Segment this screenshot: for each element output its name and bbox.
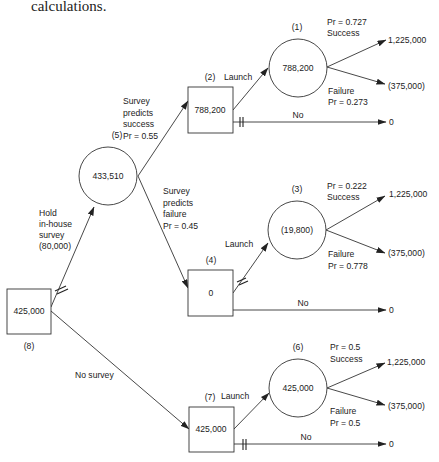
payoff-3-success: 1,225,000 bbox=[389, 189, 427, 199]
node-3-id: (3) bbox=[292, 184, 303, 194]
node-5-id: (5) bbox=[112, 130, 123, 140]
launch-label-2: Launch bbox=[224, 72, 252, 82]
node-6-failure-label: Failure bbox=[330, 406, 356, 416]
node-6-success-label: Success bbox=[330, 354, 362, 364]
node-3-failure-pr: Pr = 0.778 bbox=[328, 261, 368, 271]
node-1-failure-label: Failure bbox=[328, 86, 354, 96]
node-8-id: (8) bbox=[24, 341, 35, 351]
no-label-7: No bbox=[301, 432, 312, 442]
node-7-value: 425,000 bbox=[195, 424, 226, 434]
node-2-value: 788,200 bbox=[194, 105, 225, 115]
node-3-success-label: Success bbox=[327, 192, 359, 202]
node-6-failure-pr: Pr = 0.5 bbox=[330, 418, 361, 428]
node-7-id: (7) bbox=[205, 392, 216, 402]
node-6-value: 425,000 bbox=[282, 383, 313, 393]
payoff-6-success: 1,225,000 bbox=[387, 357, 425, 367]
edge-launch-4 bbox=[233, 243, 268, 293]
node-1-value: 788,200 bbox=[282, 63, 313, 73]
edge-success-1 bbox=[327, 40, 386, 67]
node-2-id: (2) bbox=[205, 72, 216, 82]
no-label-2: No bbox=[293, 110, 304, 120]
payoff-1-success: 1,225,000 bbox=[388, 35, 426, 45]
node-5-value: 433,510 bbox=[92, 171, 123, 181]
node-1-id: (1) bbox=[292, 22, 303, 32]
edge-success-6 bbox=[327, 363, 385, 388]
payoff-7-no: 0 bbox=[389, 439, 394, 449]
node-3-success-pr: Pr = 0.222 bbox=[327, 181, 367, 191]
node-1-success-pr: Pr = 0.727 bbox=[327, 17, 367, 27]
payoff-3-failure: (375,000) bbox=[388, 248, 425, 258]
no-survey-label: No survey bbox=[75, 370, 114, 380]
payoff-4-no: 0 bbox=[389, 305, 394, 315]
edge-failure-6 bbox=[327, 388, 385, 405]
payoff-6-failure: (375,000) bbox=[388, 401, 425, 411]
payoff-1-failure: (375,000) bbox=[388, 81, 425, 91]
pruned-marker bbox=[243, 439, 246, 450]
pruned-marker bbox=[237, 278, 248, 285]
launch-label-7: Launch bbox=[221, 391, 249, 401]
no-label-4: No bbox=[298, 298, 309, 308]
decision-tree: 425,000 (8) 433,510 (5) 788,200 (2) 0 (4… bbox=[0, 0, 439, 462]
node-3-failure-label: Failure bbox=[328, 249, 354, 259]
node-6-success-pr: Pr = 0.5 bbox=[330, 342, 361, 352]
node-6-id: (6) bbox=[293, 342, 304, 352]
node-8-value: 425,000 bbox=[13, 306, 44, 316]
node-1-success-label: Success bbox=[327, 28, 359, 38]
launch-label-4: Launch bbox=[225, 239, 253, 249]
node-4-value: 0 bbox=[209, 288, 214, 298]
survey-branch-label: Hold in-house survey (80,000) bbox=[39, 208, 74, 251]
survey-success-label: Survey predicts success Pr = 0.55 bbox=[123, 96, 158, 141]
node-3-value: (19,800) bbox=[281, 225, 313, 235]
survey-failure-label: Survey predicts failure Pr = 0.45 bbox=[163, 186, 198, 231]
edge-failure-1 bbox=[327, 67, 385, 84]
node-4-id: (4) bbox=[206, 255, 217, 265]
payoff-2-no: 0 bbox=[389, 117, 394, 127]
edge-no-survey bbox=[51, 311, 189, 429]
node-1-failure-pr: Pr = 0.273 bbox=[328, 97, 368, 107]
